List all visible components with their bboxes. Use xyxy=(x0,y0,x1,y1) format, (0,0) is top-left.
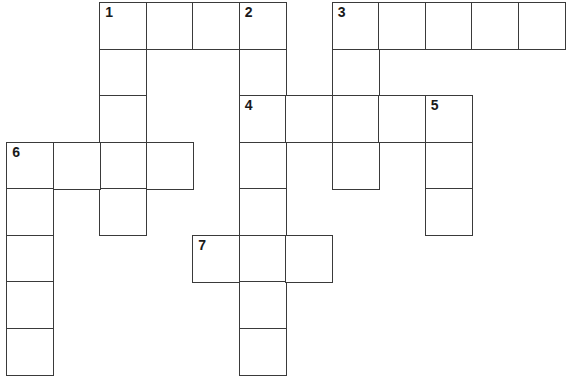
clue-number: 3 xyxy=(338,5,346,19)
crossword-cell[interactable] xyxy=(99,49,147,97)
clue-number: 2 xyxy=(245,5,253,19)
crossword-cell[interactable] xyxy=(53,142,101,190)
crossword-cell[interactable] xyxy=(239,188,287,236)
crossword-cell[interactable] xyxy=(239,328,287,376)
crossword-cell[interactable] xyxy=(332,49,380,97)
crossword-cell[interactable] xyxy=(239,49,287,97)
crossword-cell[interactable]: 2 xyxy=(239,2,287,50)
clue-number: 6 xyxy=(12,145,20,159)
crossword-cell[interactable] xyxy=(285,235,333,283)
crossword-cell[interactable] xyxy=(471,2,519,50)
crossword-cell[interactable] xyxy=(425,188,473,236)
crossword-cell[interactable] xyxy=(332,142,380,190)
crossword-cell[interactable] xyxy=(425,142,473,190)
crossword-grid: 1243567 xyxy=(0,0,573,379)
clue-number: 4 xyxy=(245,98,253,112)
crossword-cell[interactable] xyxy=(192,2,240,50)
crossword-cell[interactable] xyxy=(99,95,147,143)
crossword-cell[interactable] xyxy=(6,188,54,236)
crossword-cell[interactable] xyxy=(518,2,566,50)
crossword-cell[interactable] xyxy=(332,95,380,143)
clue-number: 5 xyxy=(431,98,439,112)
crossword-cell[interactable] xyxy=(239,281,287,329)
crossword-cell[interactable]: 6 xyxy=(6,142,54,190)
crossword-cell[interactable] xyxy=(239,235,287,283)
crossword-cell[interactable] xyxy=(378,2,426,50)
crossword-cell[interactable]: 3 xyxy=(332,2,380,50)
crossword-cell[interactable] xyxy=(425,2,473,50)
crossword-cell[interactable] xyxy=(6,281,54,329)
clue-number: 7 xyxy=(198,238,206,252)
crossword-cell[interactable] xyxy=(146,142,194,190)
crossword-cell[interactable] xyxy=(239,142,287,190)
crossword-cell[interactable] xyxy=(6,235,54,283)
crossword-cell[interactable]: 4 xyxy=(239,95,287,143)
crossword-cell[interactable]: 5 xyxy=(425,95,473,143)
crossword-cell[interactable] xyxy=(99,188,147,236)
crossword-cell[interactable] xyxy=(146,2,194,50)
crossword-cell[interactable]: 7 xyxy=(192,235,240,283)
crossword-cell[interactable] xyxy=(378,95,426,143)
crossword-cell[interactable]: 1 xyxy=(99,2,147,50)
clue-number: 1 xyxy=(105,5,113,19)
crossword-cell[interactable] xyxy=(99,142,147,190)
crossword-cell[interactable] xyxy=(285,95,333,143)
crossword-cell[interactable] xyxy=(6,328,54,376)
